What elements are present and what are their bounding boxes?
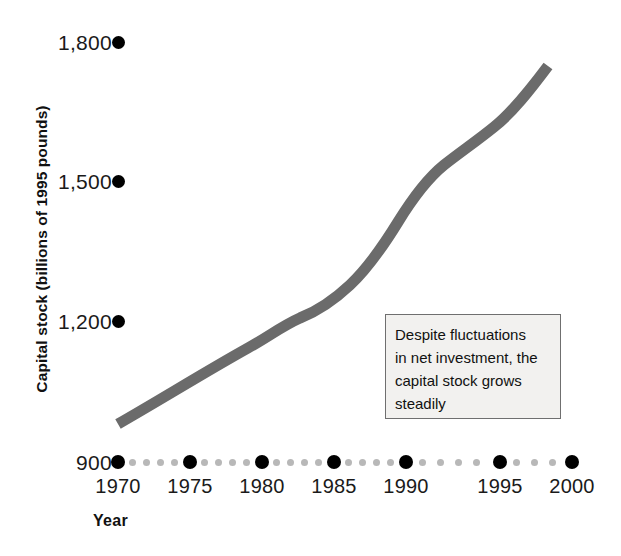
annotation-line-2: in net investment, the — [395, 346, 560, 369]
annotation-line-1: Despite fluctuations — [395, 323, 560, 346]
annotation-box: Despite fluctuations in net investment, … — [385, 314, 561, 419]
capital-stock-chart: Capital stock (billions of 1995 pounds) … — [0, 0, 621, 556]
plot-area — [0, 0, 621, 556]
annotation-line-3: capital stock grows — [395, 369, 560, 392]
annotation-line-4: steadily — [395, 392, 560, 415]
